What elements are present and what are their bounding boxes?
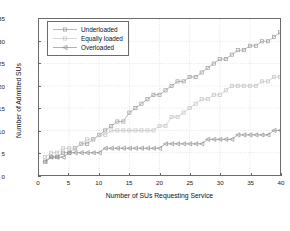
x-tick-label: 20 [147, 179, 173, 186]
x-tick-label: 25 [177, 179, 203, 186]
y-axis-label: Number of Admitted SUs [15, 21, 22, 181]
x-tick-label: 15 [116, 179, 142, 186]
x-tick-mark [190, 173, 191, 176]
y-tick-mark [38, 108, 41, 109]
x-tick-mark [68, 173, 69, 176]
y-tick-mark [38, 131, 41, 132]
x-tick-mark [220, 173, 221, 176]
legend-marker-icon [52, 34, 78, 43]
legend-item-3: Overloaded [52, 43, 123, 52]
legend-item-2: Equally loaded [52, 34, 123, 43]
x-axis-label: Number of SUs Requesting Service [38, 192, 281, 199]
y-tick-mark [38, 86, 41, 87]
legend-marker-icon [52, 25, 78, 34]
y-tick-mark [38, 18, 41, 19]
x-tick-mark [38, 173, 39, 176]
x-tick-label: 10 [86, 179, 112, 186]
x-tick-label: 30 [207, 179, 233, 186]
chart-figure: Number of Admitted SUs 05101520253035051… [0, 0, 290, 231]
legend-label: Overloaded [78, 44, 114, 51]
y-tick-label: 30 [0, 37, 5, 44]
y-tick-label: 35 [0, 15, 5, 22]
y-tick-mark [38, 176, 41, 177]
y-tick-mark [38, 153, 41, 154]
y-tick-label: 25 [0, 60, 5, 67]
x-tick-label: 40 [268, 179, 290, 186]
x-tick-mark [251, 173, 252, 176]
legend-label: Equally loaded [78, 35, 123, 42]
x-tick-mark [99, 173, 100, 176]
legend-label: Underloaded [78, 26, 118, 33]
x-tick-label: 35 [238, 179, 264, 186]
y-tick-label: 20 [0, 82, 5, 89]
y-tick-mark [38, 41, 41, 42]
x-tick-mark [160, 173, 161, 176]
x-tick-mark [129, 173, 130, 176]
y-tick-label: 5 [0, 150, 5, 157]
y-tick-label: 10 [0, 127, 5, 134]
x-tick-label: 0 [25, 179, 51, 186]
x-tick-label: 5 [55, 179, 81, 186]
y-tick-label: 15 [0, 105, 5, 112]
legend-item-1: Underloaded [52, 25, 123, 34]
chart-legend: UnderloadedEqually loadedOverloaded [47, 21, 129, 56]
y-tick-mark [38, 63, 41, 64]
y-tick-label: 0 [0, 173, 5, 180]
x-tick-mark [281, 173, 282, 176]
legend-marker-icon [52, 43, 78, 52]
